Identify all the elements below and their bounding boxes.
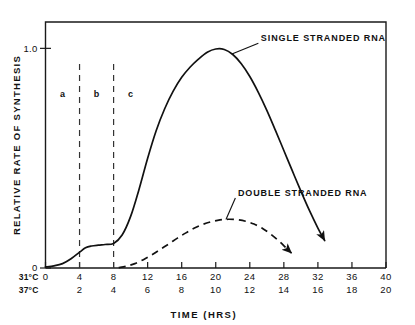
x-tick-label-primary: 28 <box>278 271 289 282</box>
x-tick-label-secondary: 10 <box>210 284 221 295</box>
region-label-b: b <box>94 89 100 99</box>
region-label-a: a <box>60 89 66 99</box>
x-tick-label-primary: 40 <box>380 271 391 282</box>
x-tick-label-secondary: 6 <box>145 284 151 295</box>
x-tick-label-secondary: 4 <box>111 284 117 295</box>
x-tick-label-secondary: 18 <box>346 284 357 295</box>
leader-line-double-stranded-rna <box>226 198 235 219</box>
x-axis-labels-secondary: 2468101214161820 <box>77 284 392 295</box>
rna-synthesis-chart: 01.0 0481216202428323640 246810121416182… <box>0 0 415 325</box>
x-tick-label-secondary: 12 <box>244 284 255 295</box>
x-tick-label-secondary: 16 <box>312 284 323 295</box>
temp-label-primary: 31°C <box>19 272 39 282</box>
series-annotations: SINGLE STRANDED RNA DOUBLE STRANDED RNA <box>226 33 386 220</box>
data-curves <box>46 49 325 268</box>
series-label-single-stranded-rna: SINGLE STRANDED RNA <box>261 33 386 43</box>
x-tick-label-primary: 8 <box>111 271 117 282</box>
x-tick-label-primary: 12 <box>142 271 153 282</box>
x-tick-label-primary: 20 <box>210 271 221 282</box>
x-tick-label-secondary: 2 <box>77 284 83 295</box>
y-axis-ticks: 01.0 <box>23 43 51 274</box>
x-tick-label-primary: 32 <box>312 271 323 282</box>
x-tick-label-primary: 24 <box>244 271 255 282</box>
x-axis-ticks <box>46 262 387 268</box>
series-line-double-stranded-rna <box>119 219 292 267</box>
x-tick-label-primary: 4 <box>77 271 83 282</box>
region-labels: abc <box>60 89 133 99</box>
x-axis-labels-primary: 0481216202428323640 <box>43 271 392 282</box>
series-label-double-stranded-rna: DOUBLE STRANDED RNA <box>238 188 368 198</box>
x-tick-label-secondary: 8 <box>179 284 185 295</box>
y-axis-title: RELATIVE RATE OF SYNTHESIS <box>11 55 22 235</box>
temp-label-secondary: 37°C <box>19 285 39 295</box>
plot-frame <box>46 22 387 268</box>
figure-container: 01.0 0481216202428323640 246810121416182… <box>0 0 415 325</box>
x-tick-label-primary: 0 <box>43 271 49 282</box>
x-axis-title: TIME (HRS) <box>170 309 237 320</box>
x-tick-label-primary: 16 <box>176 271 187 282</box>
x-tick-label-primary: 36 <box>346 271 357 282</box>
x-tick-label-secondary: 20 <box>380 284 391 295</box>
x-tick-label-secondary: 14 <box>278 284 289 295</box>
y-tick-label: 1.0 <box>23 43 37 54</box>
leader-line-single-stranded-rna <box>232 43 258 54</box>
region-label-c: c <box>128 89 133 99</box>
